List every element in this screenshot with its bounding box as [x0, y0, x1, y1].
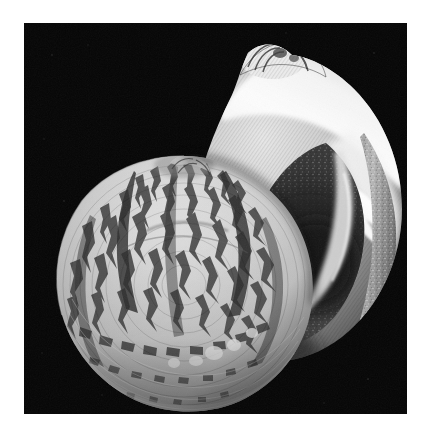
shell-photograph-canvas [24, 23, 407, 414]
shell-photograph [24, 23, 407, 414]
photo-grain [24, 23, 407, 414]
photo-alt-text: Black and white photograph of two moon s… [0, 0, 1, 1]
page-root: Black and white photograph of two moon s… [0, 0, 433, 435]
